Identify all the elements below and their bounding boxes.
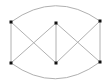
node-LB	[10, 62, 13, 65]
node-CT	[55, 22, 58, 25]
node-RT	[99, 20, 102, 23]
edge-LT-RT	[11, 6, 100, 22]
node-LT	[10, 21, 13, 24]
edge-LB-RB	[11, 62, 100, 79]
graph-diagram	[0, 0, 110, 84]
node-CB	[55, 62, 58, 65]
edge-layer	[11, 6, 100, 79]
node-RB	[99, 61, 102, 64]
